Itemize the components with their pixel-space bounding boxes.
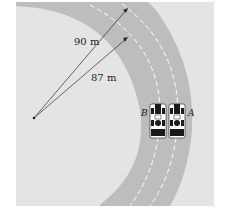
outer-radius-label: 90 m (74, 36, 100, 47)
car-b (150, 104, 166, 138)
car-a-label: A (187, 108, 195, 118)
car-a (169, 104, 185, 138)
inner-radius-label: 87 m (91, 72, 117, 83)
car-b-label: B (140, 108, 148, 118)
track-diagram: 90 m 87 m B A (0, 0, 226, 215)
diagram-canvas: 90 m 87 m B A (0, 0, 226, 215)
